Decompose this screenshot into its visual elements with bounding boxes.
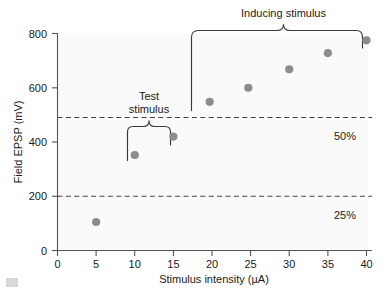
ytick-label-600: 600 [29,82,47,94]
data-point [324,49,332,57]
xtick-label-25: 25 [244,258,256,270]
data-point-series [92,36,371,226]
figure-container: 800 600 400 200 0 0 5 10 15 20 25 30 35 … [0,0,389,295]
y-axis [52,33,58,251]
xtick-label-15: 15 [167,258,179,270]
xtick-label-10: 10 [129,258,141,270]
data-point [169,132,177,140]
y-axis-title: Field EPSP (mV) [12,101,24,184]
x-axis [57,251,372,257]
xtick-label-35: 35 [322,258,334,270]
reference-label-50: 50% [334,130,356,142]
xtick-label-0: 0 [54,258,60,270]
data-point [131,151,139,159]
reference-label-25: 25% [334,209,356,221]
xtick-label-20: 20 [206,258,218,270]
xtick-label-30: 30 [283,258,295,270]
x-axis-title: Stimulus intensity (µA) [159,273,269,285]
xtick-label-40: 40 [360,258,372,270]
test-stimulus-label-line1: Test [139,90,159,102]
inducing-stimulus-brace [192,25,363,111]
ytick-label-200: 200 [29,190,47,202]
test-stimulus-label-line2: stimulus [129,103,170,115]
data-point [92,218,100,226]
data-point [206,98,214,106]
ytick-label-0: 0 [41,245,47,257]
ytick-label-800: 800 [29,28,47,40]
figure-corner-mark [6,278,18,287]
inducing-stimulus-label: Inducing stimulus [241,7,326,19]
data-point [362,36,370,44]
scatter-chart: 800 600 400 200 0 0 5 10 15 20 25 30 35 … [0,0,389,295]
data-point [285,65,293,73]
data-point [244,84,252,92]
ytick-label-400: 400 [29,136,47,148]
xtick-label-5: 5 [93,258,99,270]
